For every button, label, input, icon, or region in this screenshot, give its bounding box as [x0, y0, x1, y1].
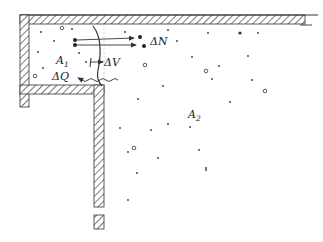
particles: [37, 28, 259, 201]
partition-wall: [94, 85, 104, 207]
label-delta-n: ΔN: [149, 35, 168, 48]
partition-wall-stub: [94, 215, 104, 229]
particle-dest: [142, 44, 146, 48]
particle-dest: [138, 35, 142, 39]
label-a1: A1: [55, 54, 69, 69]
label-a2: A2: [187, 108, 201, 123]
particle-source: [73, 38, 77, 42]
volume-arrow-tail: [90, 58, 91, 67]
diagram-canvas: A1 A2 ΔN ΔV ΔQ: [0, 0, 323, 242]
label-delta-v: ΔV: [103, 56, 121, 69]
bottom-wall: [20, 85, 104, 94]
volume-transfer: [90, 58, 103, 67]
label-delta-q: ΔQ: [51, 70, 69, 83]
particle-source: [73, 43, 77, 47]
container-walls: [20, 15, 318, 229]
particle-arrow: [77, 38, 134, 40]
movable-wall-arc: [93, 26, 102, 86]
particle-transfer: [73, 35, 146, 48]
top-wall: [20, 15, 305, 24]
